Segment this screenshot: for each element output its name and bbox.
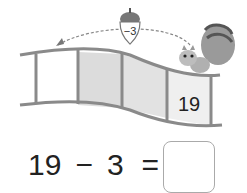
cell-1 (36, 52, 78, 105)
squirrel-icon (179, 25, 235, 73)
equation: 19 − 3 = (28, 148, 159, 182)
equation-operator: − (75, 148, 93, 182)
acorn-icon: −3 (120, 8, 140, 44)
svg-text:−3: −3 (124, 25, 137, 37)
arrowhead-icon (56, 38, 64, 46)
start-value-label: 19 (178, 93, 200, 115)
cell-2 (78, 52, 122, 108)
answer-box[interactable] (163, 141, 215, 193)
equation-equals: = (142, 148, 160, 182)
equation-right: 3 (107, 148, 124, 182)
equation-left: 19 (28, 148, 61, 182)
